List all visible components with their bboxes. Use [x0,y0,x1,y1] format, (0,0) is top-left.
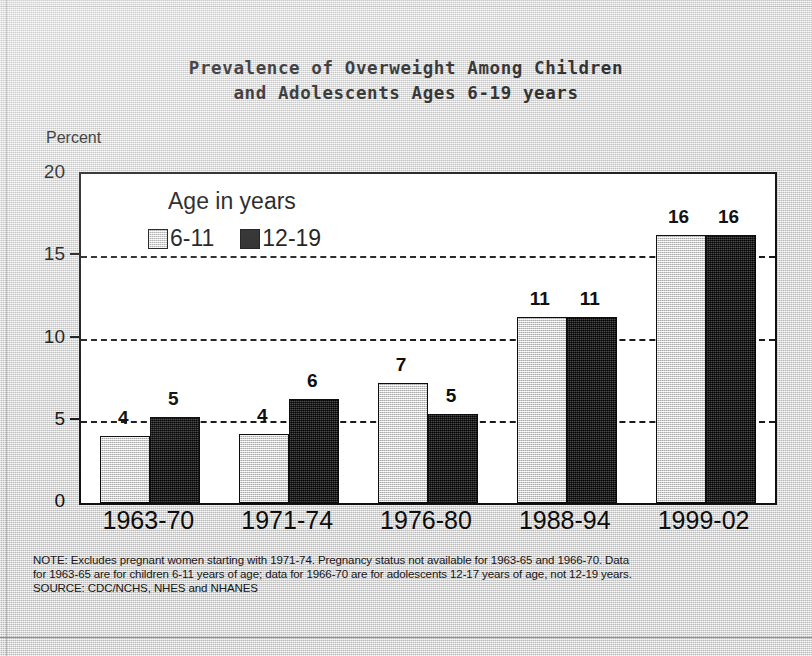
legend-title: Age in years [168,190,296,213]
chart-title-line-2: and Adolescents Ages 6-19 years [0,81,812,106]
y-tick-label: 5 [25,409,65,428]
x-tick-label: 1971-74 [218,508,357,533]
bar-12-19-1963-70 [150,417,200,503]
y-tick-mark [70,418,79,420]
y-axis-title: Percent [46,129,101,147]
bar-label-6-11-1963-70: 4 [98,408,148,427]
bar-6-11-1988-94 [517,317,567,503]
x-tick-label: 1976-80 [357,508,496,533]
legend-label-6-11: 6-11 [170,227,214,250]
x-tick-label: 1988-94 [495,508,634,533]
y-tick-label: 0 [25,491,65,510]
y-tick-label: 10 [25,327,65,346]
bar-12-19-1971-74 [289,399,339,503]
note-line-2: for 1963-65 are for children 6-11 years … [33,567,793,581]
bar-label-12-19-1976-80: 5 [426,386,476,405]
note-line-1: NOTE: Excludes pregnant women starting w… [33,553,793,567]
y-tick-label: 20 [25,162,65,181]
x-tick-label: 1963-70 [79,508,218,533]
bar-label-12-19-1963-70: 5 [148,389,198,408]
y-tick-label: 15 [25,244,65,263]
bar-6-11-1971-74 [239,434,289,503]
chart-title: Prevalence of Overweight Among Children … [0,56,812,106]
legend-swatch-6-11-icon [148,229,168,249]
chart-title-line-1: Prevalence of Overweight Among Children [189,58,623,78]
y-tick-mark [70,336,79,338]
bar-label-6-11-1976-80: 7 [376,355,426,374]
chart-page: Prevalence of Overweight Among Children … [0,0,812,656]
bar-label-12-19-1999-02: 16 [704,207,754,226]
bar-label-6-11-1971-74: 4 [237,406,287,425]
note-line-3-source: SOURCE: CDC/NCHS, NHES and NHANES [33,581,793,595]
x-tick-label: 1999-02 [634,508,773,533]
legend-swatch-12-19-icon [240,229,260,249]
bar-12-19-1988-94 [567,317,617,503]
scan-edge-bottom [0,637,812,638]
y-tick-mark [70,253,79,255]
bar-label-6-11-1988-94: 11 [515,289,565,308]
bar-label-12-19-1988-94: 11 [565,289,615,308]
chart-notes: NOTE: Excludes pregnant women starting w… [33,553,793,596]
bar-6-11-1999-02 [656,235,706,503]
bar-label-12-19-1971-74: 6 [287,371,337,390]
legend-label-12-19: 12-19 [262,227,321,250]
bar-12-19-1976-80 [428,414,478,503]
bar-12-19-1999-02 [706,235,756,503]
bar-6-11-1963-70 [100,436,150,503]
scan-edge-top [0,6,812,7]
bar-6-11-1976-80 [378,383,428,503]
legend: 6-11 12-19 [148,227,321,250]
bar-label-6-11-1999-02: 16 [654,207,704,226]
